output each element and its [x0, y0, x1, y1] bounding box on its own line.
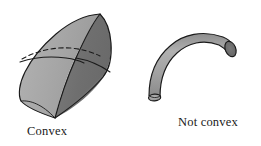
caption-convex: Convex [27, 125, 67, 138]
figure-container: Convex Not convex [0, 0, 261, 146]
not-convex-tube [148, 34, 238, 102]
convex-solid [19, 14, 111, 118]
caption-not-convex: Not convex [178, 116, 238, 129]
not-convex-tube-body [149, 34, 232, 97]
